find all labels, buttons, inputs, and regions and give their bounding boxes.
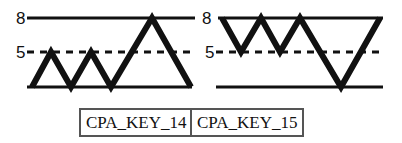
level-5-label: 5 [16, 43, 25, 62]
left-panel: 8 5 [16, 9, 195, 87]
label-cpa-key-14: CPA_KEY_14 [81, 110, 190, 135]
right-panel: 8 5 [202, 9, 383, 87]
zigzag-diagram: 8 5 8 5 [0, 0, 402, 100]
level-8-label: 8 [202, 9, 211, 28]
level-5-label: 5 [205, 43, 214, 62]
label-cpa-key-15: CPA_KEY_15 [190, 110, 302, 135]
level-8-label: 8 [16, 9, 25, 28]
key-label-table: CPA_KEY_14 CPA_KEY_15 [79, 108, 304, 137]
